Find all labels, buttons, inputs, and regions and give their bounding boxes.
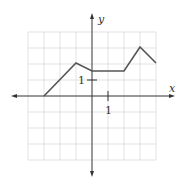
x-axis-left-arrow-icon [11, 94, 17, 98]
y-axis-up-arrow-icon [90, 13, 94, 19]
y-tick-label: 1 [78, 74, 85, 87]
coordinate-plane: y x 1 1 [0, 0, 180, 186]
y-axis [90, 13, 94, 177]
y-axis-label: y [97, 13, 105, 26]
x-axis [11, 94, 175, 98]
ticks [87, 80, 108, 101]
x-tick-label: 1 [105, 104, 112, 117]
x-axis-label: x [169, 82, 176, 95]
graph-line [44, 47, 156, 96]
y-axis-down-arrow-icon [90, 171, 94, 177]
